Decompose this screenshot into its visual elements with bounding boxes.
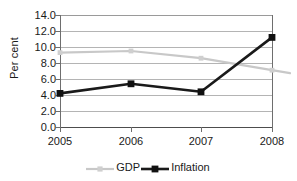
x-tick-label: 2007: [178, 136, 224, 147]
legend-label-inflation: Inflation: [169, 162, 211, 173]
legend-marker-gdp-icon: [86, 161, 114, 173]
legend-item-gdp[interactable]: GDP: [86, 158, 141, 176]
x-axis-tick-labels: 2005 2006 2007 2008: [0, 0, 297, 181]
x-tick-label: 2008: [249, 136, 295, 147]
x-tick-label: 2006: [108, 136, 154, 147]
legend-item-inflation[interactable]: Inflation: [141, 158, 211, 176]
chart-legend: GDP Inflation: [0, 158, 297, 176]
line-chart: Per cent 14.0 12.0 10.0 8.0 6.0 4.0 2.0 …: [0, 0, 297, 181]
legend-label-gdp: GDP: [114, 162, 141, 173]
x-tick-label: 2005: [37, 136, 83, 147]
legend-marker-inflation-icon: [141, 161, 169, 173]
